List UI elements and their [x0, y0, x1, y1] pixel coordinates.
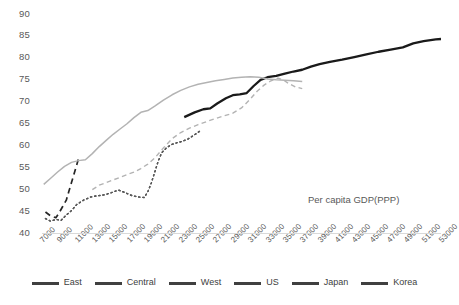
- chart-legend: EastCentralWestUSJapanKorea: [0, 277, 449, 287]
- legend-item-east[interactable]: East: [32, 277, 82, 287]
- series-line-korea: [44, 77, 302, 185]
- x-axis-title: Per capita GDP(PPP): [308, 194, 399, 205]
- legend-item-korea[interactable]: Korea: [361, 277, 417, 287]
- legend-label-us: US: [266, 277, 279, 287]
- series-line-us: [184, 39, 441, 117]
- legend-swatch-korea-icon: [361, 278, 388, 287]
- legend-item-us[interactable]: US: [234, 277, 279, 287]
- legend-label-central: Central: [127, 277, 156, 287]
- legend-label-korea: Korea: [393, 277, 417, 287]
- legend-swatch-east-icon: [32, 278, 59, 287]
- legend-item-west[interactable]: West: [169, 277, 221, 287]
- legend-swatch-us-icon: [234, 278, 261, 287]
- series-line-japan: [92, 78, 302, 190]
- legend-item-japan[interactable]: Japan: [292, 277, 349, 287]
- legend-label-west: West: [201, 277, 221, 287]
- legend-swatch-japan-icon: [292, 278, 319, 287]
- legend-item-central[interactable]: Central: [95, 277, 156, 287]
- legend-label-east: East: [64, 277, 82, 287]
- legend-label-japan: Japan: [324, 277, 349, 287]
- legend-swatch-central-icon: [95, 278, 122, 287]
- legend-swatch-west-icon: [169, 278, 196, 287]
